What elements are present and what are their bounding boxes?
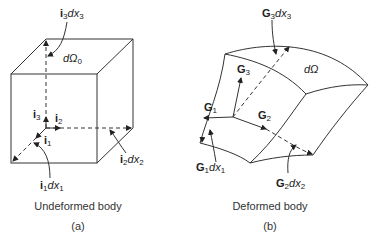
caption-undeformed-body: Undeformed body <box>34 201 121 212</box>
label-dOmega: dΩ <box>304 64 319 75</box>
basis-vectors-undeformed <box>13 22 131 178</box>
caption-deformed-body: Deformed body <box>232 201 307 212</box>
label-G1dx1: G1dx1 <box>196 162 225 175</box>
label-i3dx3: i3dx3 <box>60 8 84 21</box>
basis-vectors-deformed <box>202 20 312 173</box>
label-G2dx2: G2dx2 <box>276 178 305 191</box>
label-G3dx3: G3dx3 <box>262 8 291 21</box>
caption-panel-a: (a) <box>71 221 84 232</box>
caption-panel-b: (b) <box>263 221 276 232</box>
label-i3: i3 <box>33 109 41 122</box>
deformed-element <box>200 46 368 163</box>
label-i2dx2: i2dx2 <box>120 154 144 167</box>
label-i1dx1: i1dx1 <box>40 180 64 193</box>
label-G3: G3 <box>237 64 250 77</box>
label-G1: G1 <box>204 102 217 115</box>
label-i1: i1 <box>44 135 52 148</box>
label-dOmega0: dΩ0 <box>63 53 82 66</box>
label-i2: i2 <box>55 113 63 126</box>
label-G2: G2 <box>258 110 271 123</box>
